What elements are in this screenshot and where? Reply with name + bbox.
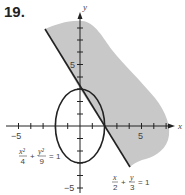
svg-text:y²: y² xyxy=(37,147,45,156)
svg-text:2: 2 xyxy=(113,183,118,192)
svg-text:= 1: = 1 xyxy=(49,152,61,161)
svg-text:y: y xyxy=(129,173,134,182)
svg-text:x²: x² xyxy=(18,147,26,156)
svg-text:+: + xyxy=(121,178,126,187)
svg-text:x: x xyxy=(112,173,117,182)
x-tick-label-5: 5 xyxy=(138,131,143,141)
y-tick-label-neg5: −5 xyxy=(64,183,74,193)
y-axis-arrow-icon xyxy=(78,12,83,19)
svg-text:= 1: = 1 xyxy=(138,178,150,187)
x-tick-label-neg5: −5 xyxy=(11,131,21,141)
line-equation-label: x 2 + y 3 = 1 xyxy=(112,173,150,192)
graph: y x −5 5 5 −5 x² 4 + y² 9 = 1 x 2 + y 3 … xyxy=(0,0,185,195)
svg-text:+: + xyxy=(30,152,35,161)
shaded-region xyxy=(45,21,169,167)
x-axis-label: x xyxy=(177,121,182,131)
x-axis-arrow-icon xyxy=(168,124,175,129)
svg-text:3: 3 xyxy=(130,183,135,192)
y-tick-label-5: 5 xyxy=(70,60,75,70)
ellipse-equation-label: x² 4 + y² 9 = 1 xyxy=(18,147,61,166)
y-axis-label: y xyxy=(82,2,87,12)
svg-text:4: 4 xyxy=(21,157,26,166)
svg-text:9: 9 xyxy=(40,157,45,166)
